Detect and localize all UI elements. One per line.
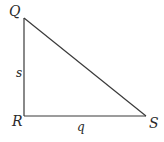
side-qs-hypotenuse-line (24, 18, 146, 116)
vertex-label-s: S (149, 115, 159, 131)
vertex-label-q: Q (9, 3, 21, 19)
right-triangle-figure: Q R S s q (0, 0, 164, 142)
vertex-label-r: R (11, 113, 23, 129)
diagram-canvas: Q R S s q (0, 0, 164, 142)
side-label-s: s (16, 66, 22, 80)
side-label-q: q (77, 120, 85, 134)
